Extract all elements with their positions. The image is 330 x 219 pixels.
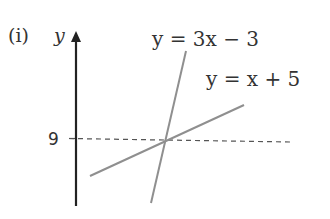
y-axis-arrow-icon [71,31,81,42]
line-y-equals-x-plus-5 [90,105,244,176]
tick-label-9: 9 [48,129,59,149]
equation-label-line2: y = x + 5 [205,67,300,91]
simultaneous-equations-graph: (i) y y = 3x − 3 y = x + 5 9 [0,0,330,219]
equation-label-line1: y = 3x − 3 [151,27,259,51]
y-axis-label: y [53,24,65,46]
dashed-line-y9 [69,139,291,143]
part-label: (i) [8,24,29,46]
line-y-equals-3x-minus-3 [151,51,186,203]
